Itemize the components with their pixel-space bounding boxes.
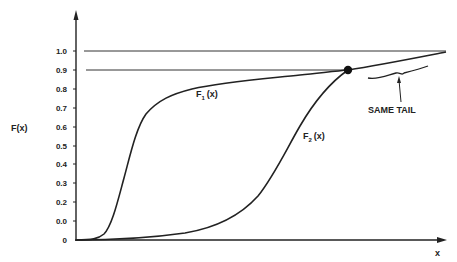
y-tick-label: 0.0 xyxy=(56,217,68,226)
y-tick-label: 0.7 xyxy=(56,104,68,113)
y-tick-label: 0.4 xyxy=(56,160,68,169)
y-axis-label: F(x) xyxy=(11,123,28,133)
annotation-arrow-shaft xyxy=(399,80,401,102)
cdf-chart: 1.0 0.9 0.8 0.7 0.6 0.5 0.4 0.3 0.2 0.0 … xyxy=(0,0,457,262)
y-axis xyxy=(74,10,79,241)
annotation-arrow-icon xyxy=(397,76,401,83)
y-tick-label: 0 xyxy=(63,236,68,245)
y-tick-labels: 1.0 0.9 0.8 0.7 0.6 0.5 0.4 0.3 0.2 0.0 … xyxy=(56,47,68,245)
y-tick-label: 0.9 xyxy=(56,66,68,75)
x-axis-arrow-icon xyxy=(437,237,447,243)
y-axis-arrow-icon xyxy=(74,10,79,20)
y-tick-label: 0.6 xyxy=(56,123,68,132)
y-tick-label: 0.5 xyxy=(56,142,68,151)
x-axis-label: x xyxy=(435,248,440,258)
same-tail-label: SAME TAIL xyxy=(368,105,416,115)
y-tick-label: 0.8 xyxy=(56,85,68,94)
intersection-marker xyxy=(344,66,352,74)
y-tick-label: 1.0 xyxy=(56,47,68,56)
y-tick-label: 0.3 xyxy=(56,179,68,188)
y-tick-label: 0.2 xyxy=(56,198,68,207)
curve-label-f1: F1(x) xyxy=(196,89,218,101)
tail-squiggle xyxy=(368,66,428,78)
curve-f1 xyxy=(76,52,446,240)
curve-label-f2: F2(x) xyxy=(303,131,325,143)
